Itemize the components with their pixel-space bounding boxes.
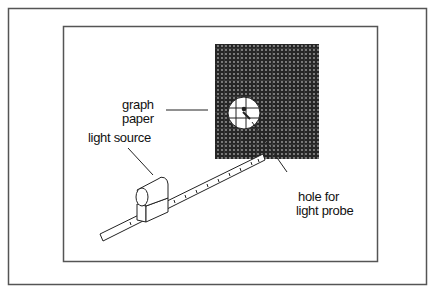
diagram-canvas <box>0 0 434 290</box>
graph-paper-label: graph paper <box>122 98 154 126</box>
hole-label: hole for light probe <box>296 190 353 218</box>
graph-paper-label-line1: graph <box>122 98 154 112</box>
optical-rail <box>100 154 265 241</box>
graph-paper <box>215 44 319 159</box>
light-source <box>136 177 168 222</box>
light-source-leader <box>128 148 153 175</box>
hole-label-line2: light probe <box>296 204 353 218</box>
hole-label-line1: hole for <box>296 190 353 204</box>
light-source-label: light source <box>88 131 151 145</box>
graph-paper-label-line2: paper <box>122 112 154 126</box>
hole-for-light-probe <box>228 97 260 129</box>
